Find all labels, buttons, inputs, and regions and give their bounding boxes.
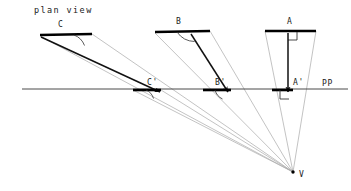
label-picture-plane: PP	[322, 79, 333, 88]
sight-line-b-left	[155, 33, 293, 172]
sight-line-a-right	[293, 31, 316, 172]
object-segment-c-group	[40, 34, 160, 92]
object-segment-a-group	[265, 31, 316, 92]
label-b-prime: B'	[215, 78, 226, 87]
angle-arc-c	[74, 35, 85, 46]
label-c-prime: C'	[147, 78, 158, 87]
label-a-prime: A'	[293, 78, 304, 87]
right-angle-marker-a	[288, 32, 297, 40]
label-a: A	[287, 17, 292, 26]
sight-line-c-left	[40, 36, 293, 172]
sight-line-a-left	[265, 31, 293, 172]
projection-line-c	[41, 37, 160, 92]
vanishing-point-marker	[291, 170, 294, 173]
sight-lines-group	[40, 31, 316, 172]
object-segment-c	[40, 34, 92, 35]
sight-line-c-right	[92, 34, 293, 172]
label-b: B	[176, 17, 181, 26]
image-segment-a-group	[272, 90, 293, 99]
sight-line-cprime-right	[161, 90, 293, 172]
label-c: C	[58, 20, 63, 29]
object-segment-b	[155, 31, 210, 32]
plan-view-diagram: plan view C B A C' B' A' PP V	[0, 0, 351, 191]
label-vanishing-point: V	[299, 170, 304, 179]
diagram-title: plan view	[34, 5, 93, 15]
plan-view-canvas: plan view C B A C' B' A' PP V	[0, 0, 351, 191]
